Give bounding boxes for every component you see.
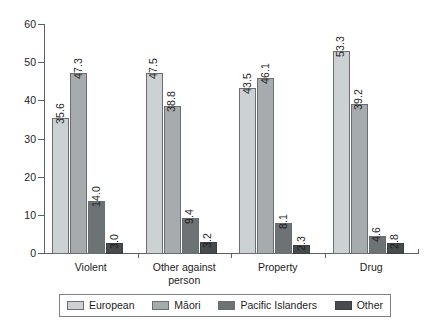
y-tick-label: 40 bbox=[0, 95, 36, 105]
x-axis-end-cap bbox=[418, 249, 419, 254]
legend-swatch-icon bbox=[67, 301, 84, 310]
bar-value-label: 14.0 bbox=[91, 186, 102, 207]
legend-swatch-icon bbox=[218, 301, 235, 310]
x-category-label: Property bbox=[231, 261, 325, 274]
y-tick-label: 60 bbox=[0, 19, 36, 29]
legend-label: Other bbox=[357, 300, 383, 311]
bar-value-label: 2.3 bbox=[296, 236, 307, 251]
bar-value-label: 39.2 bbox=[353, 90, 364, 111]
legend-item: Māori bbox=[152, 300, 200, 311]
x-category-label: Violent bbox=[44, 261, 138, 274]
x-category-label: Other against person bbox=[138, 261, 232, 286]
chart-legend: EuropeanMāoriPacific IslandersOther bbox=[59, 294, 391, 317]
bar-value-label: 47.5 bbox=[148, 58, 159, 79]
bar-value-label: 4.6 bbox=[371, 228, 382, 243]
bar bbox=[146, 73, 163, 254]
bar-value-label: 47.3 bbox=[73, 59, 84, 80]
bar-value-label: 43.5 bbox=[242, 73, 253, 94]
bar bbox=[239, 88, 256, 254]
legend-swatch-icon bbox=[335, 301, 352, 310]
legend-label: Pacific Islanders bbox=[240, 300, 316, 311]
y-tick-label: 10 bbox=[0, 210, 36, 220]
bar-value-label: 8.1 bbox=[278, 214, 289, 229]
bar-value-label: 38.8 bbox=[166, 91, 177, 112]
bar bbox=[257, 78, 274, 254]
bar bbox=[70, 73, 87, 254]
bar bbox=[351, 104, 368, 254]
bar-value-label: 3.2 bbox=[202, 233, 213, 248]
legend-item: Pacific Islanders bbox=[218, 300, 316, 311]
bar bbox=[333, 51, 350, 254]
bar bbox=[164, 106, 181, 254]
legend-label: Māori bbox=[174, 300, 200, 311]
bar bbox=[52, 118, 69, 254]
bar-value-label: 35.6 bbox=[55, 103, 66, 124]
y-tick-label: 50 bbox=[0, 57, 36, 67]
bar-value-label: 3.0 bbox=[109, 234, 120, 249]
legend-item: Other bbox=[335, 300, 383, 311]
y-tick-label: 30 bbox=[0, 134, 36, 144]
plot-area: 35.647.314.03.047.538.89.43.243.546.18.1… bbox=[44, 24, 418, 254]
y-tick-label: 0 bbox=[0, 248, 36, 258]
bar-value-label: 9.4 bbox=[184, 209, 195, 224]
legend-swatch-icon bbox=[152, 301, 169, 310]
legend-label: European bbox=[89, 300, 135, 311]
bar-value-label: 53.3 bbox=[335, 36, 346, 57]
grouped-bar-chart: 0102030405060 35.647.314.03.047.538.89.4… bbox=[0, 0, 428, 329]
x-category-label: Drug bbox=[325, 261, 419, 274]
y-tick-label: 20 bbox=[0, 172, 36, 182]
bar-value-label: 2.8 bbox=[389, 234, 400, 249]
bar-value-label: 46.1 bbox=[260, 63, 271, 84]
bar bbox=[88, 201, 105, 254]
legend-item: European bbox=[67, 300, 135, 311]
